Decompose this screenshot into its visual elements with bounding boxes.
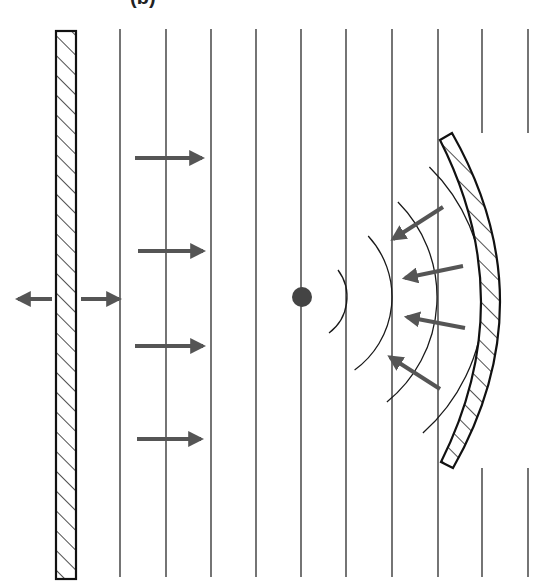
wave-reflection-diagram [0, 0, 554, 585]
reflected-arrow-icon [390, 357, 440, 389]
reflected-arrow-icon [407, 317, 465, 328]
propagation-arrows [18, 158, 465, 439]
focus-point [292, 287, 312, 307]
converging-arc [355, 236, 392, 370]
focus-dot [292, 287, 312, 307]
reflected-arrow-icon [393, 207, 443, 239]
hatched-mirror [440, 133, 500, 468]
hatched-plate [56, 31, 76, 579]
concave-mirror [440, 133, 500, 468]
plane-wavefronts [120, 29, 528, 577]
converging-arc [329, 270, 347, 333]
converging-wavefronts [329, 167, 484, 433]
flat-emitting-plate [56, 31, 76, 579]
